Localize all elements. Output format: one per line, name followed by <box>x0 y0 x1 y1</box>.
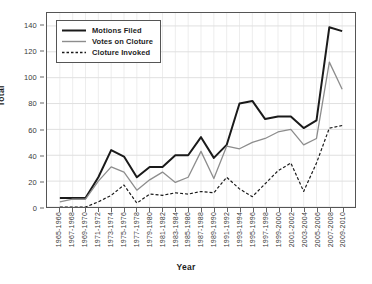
y-tick-mark <box>40 181 44 182</box>
x-tick-label: 1979-1980 <box>146 212 153 247</box>
x-tick-label: 1983-1984 <box>172 212 179 247</box>
legend-item: Motions Filed <box>62 25 153 36</box>
legend-item: Cloture Invoked <box>62 47 153 58</box>
legend-label: Cloture Invoked <box>92 48 150 57</box>
y-tick-mark <box>40 129 44 130</box>
y-tick-label: 20 <box>28 177 37 186</box>
x-tick-label: 1995-1996 <box>249 212 256 247</box>
y-tick-mark <box>40 77 44 78</box>
x-axis-tick-labels: 1965-19661967-19681969-19701971-19721973… <box>46 208 356 266</box>
x-tick-label: 1993-1994 <box>236 212 243 247</box>
y-tick-label: 60 <box>28 125 37 134</box>
x-tick-label: 2007-2008 <box>327 212 334 247</box>
y-axis-tick-labels: 020406080100120140 <box>0 12 44 208</box>
x-tick-label: 1985-1986 <box>184 212 191 247</box>
x-tick-label: 1991-1992 <box>223 212 230 247</box>
x-tick-label: 1971-1972 <box>94 212 101 247</box>
x-tick-label: 1997-1998 <box>262 212 269 247</box>
y-tick-label: 120 <box>24 47 37 56</box>
y-tick-mark <box>40 155 44 156</box>
x-tick-label: 1989-1990 <box>210 212 217 247</box>
x-tick-label: 1965-1966 <box>55 212 62 247</box>
y-tick-mark <box>40 208 44 209</box>
legend-label: Votes on Cloture <box>92 37 153 46</box>
x-tick-label: 1981-1982 <box>159 212 166 247</box>
legend-swatch-icon <box>62 37 86 46</box>
x-tick-label: 2005-2006 <box>314 212 321 247</box>
y-tick-label: 100 <box>24 73 37 82</box>
y-tick-mark <box>40 25 44 26</box>
y-tick-label: 40 <box>28 151 37 160</box>
x-tick-label: 1987-1988 <box>197 212 204 247</box>
x-tick-label: 1977-1978 <box>133 212 140 247</box>
x-tick-label: 1973-1974 <box>107 212 114 247</box>
y-tick-label: 140 <box>24 21 37 30</box>
y-tick-mark <box>40 103 44 104</box>
x-tick-label: 2001-2002 <box>288 212 295 247</box>
y-tick-mark <box>40 51 44 52</box>
legend-label: Motions Filed <box>92 26 142 35</box>
x-tick-label: 1969-1970 <box>81 212 88 247</box>
x-tick-label: 1967-1968 <box>68 212 75 247</box>
legend-item: Votes on Cloture <box>62 36 153 47</box>
x-tick-label: 2009-2010 <box>339 212 346 247</box>
x-tick-label: 2003-2004 <box>301 212 308 247</box>
legend-swatch-icon <box>62 48 86 57</box>
y-tick-label: 0 <box>33 204 37 213</box>
cloture-line-chart: Total 020406080100120140 Motions FiledVo… <box>0 0 372 284</box>
x-tick-label: 1999-2000 <box>275 212 282 247</box>
legend-swatch-icon <box>62 26 86 35</box>
x-tick-label: 1975-1976 <box>120 212 127 247</box>
x-axis-title: Year <box>0 262 372 272</box>
y-tick-label: 80 <box>28 99 37 108</box>
chart-legend: Motions FiledVotes on ClotureCloture Inv… <box>56 20 161 63</box>
